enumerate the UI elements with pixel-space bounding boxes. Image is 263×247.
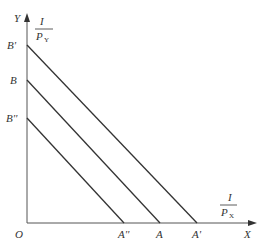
budget-line-b <box>27 80 160 223</box>
y-axis-label: Y <box>14 12 22 24</box>
budget-line-diagram: Y X O I P Y I P X B' B B'' A' A A'' <box>0 0 263 247</box>
label-b-double-prime: B'' <box>6 112 18 124</box>
origin-label: O <box>15 228 23 240</box>
label-a-prime: A' <box>191 228 202 240</box>
y-axis-arrow-icon <box>24 13 30 22</box>
budget-line-b-double-prime <box>27 118 124 223</box>
x-formula-denominator: P <box>220 206 228 218</box>
budget-line-b-prime <box>27 45 197 223</box>
x-axis-arrow-icon <box>248 220 257 226</box>
x-formula-subscript: X <box>229 212 234 220</box>
label-b: B <box>10 74 17 86</box>
x-axis-label: X <box>243 228 252 240</box>
y-formula-subscript: Y <box>44 36 49 44</box>
label-a: A <box>155 228 163 240</box>
label-a-double-prime: A'' <box>117 228 130 240</box>
label-b-prime: B' <box>7 39 17 51</box>
x-formula-numerator: I <box>227 191 233 203</box>
y-formula-denominator: P <box>35 30 43 42</box>
y-formula-numerator: I <box>39 15 45 27</box>
